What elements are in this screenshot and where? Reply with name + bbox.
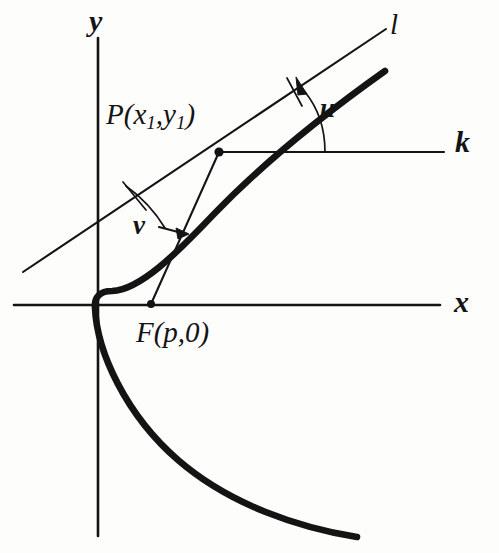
angle-v-tick (123, 182, 146, 210)
point-p-open-paren: ( (124, 98, 134, 130)
tangent-line-l (23, 29, 386, 272)
tangent-line-label: l (390, 10, 398, 39)
angle-u-arrowhead (296, 77, 307, 95)
figure-canvas (0, 0, 499, 553)
point-p-y-subscript: 1 (176, 112, 186, 133)
point-p-y-symbol: y (163, 98, 176, 130)
point-p-x-symbol: x (133, 98, 146, 130)
point-p-label: P(x1,y1) (106, 100, 195, 132)
angle-v-label: v (133, 212, 145, 239)
point-p-x-subscript: 1 (146, 112, 156, 133)
point-p-name: P (106, 98, 124, 130)
y-axis-label: y (89, 6, 102, 36)
focus-f-label: F(p,0) (136, 318, 209, 347)
focus-f-dot (147, 300, 155, 308)
x-axis-label: x (454, 287, 469, 317)
point-p-close-paren: ) (186, 98, 196, 130)
angle-u-label: u (320, 95, 335, 122)
point-p-comma: , (156, 98, 163, 130)
parabola-figure: y x k l P(x1,y1) F(p,0) u v (0, 0, 499, 553)
ray-k-label: k (455, 127, 470, 157)
point-p-dot (214, 147, 223, 156)
